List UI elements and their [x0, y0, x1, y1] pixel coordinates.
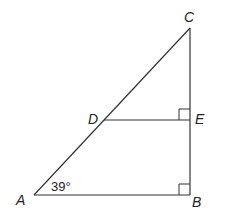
segment-ac [34, 28, 190, 195]
vertex-label-a: A [15, 192, 25, 208]
angle-label-a: 39° [51, 179, 71, 194]
vertex-label-d: D [88, 111, 98, 127]
triangle-diagram: C D E A B 39° [0, 0, 225, 218]
vertex-label-e: E [195, 111, 205, 127]
right-angle-marker-b [179, 184, 190, 195]
vertex-label-b: B [192, 194, 201, 210]
vertex-label-c: C [184, 9, 195, 25]
right-angle-marker-e [179, 109, 190, 120]
